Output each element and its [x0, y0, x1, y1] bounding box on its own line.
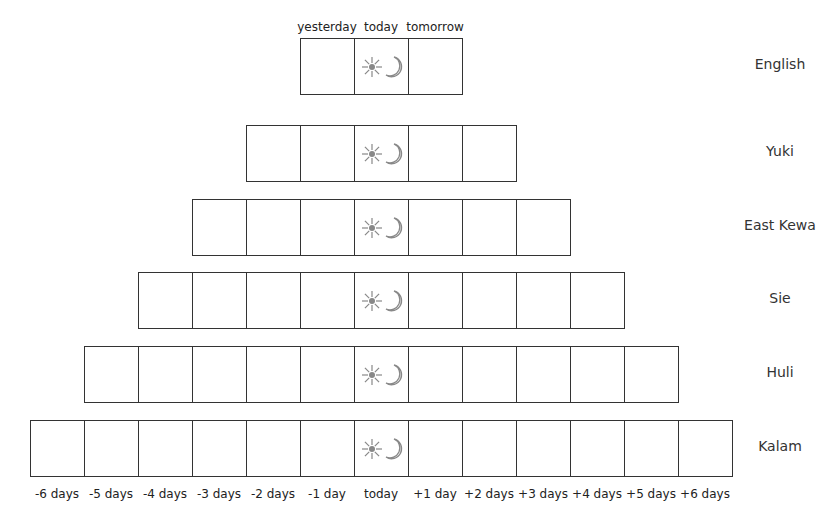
today-cell [355, 347, 409, 402]
day-cell [517, 347, 571, 402]
day-cell [625, 347, 679, 402]
day-cell [409, 126, 463, 181]
day-cell [463, 200, 517, 255]
bottom-day-label: -6 days [35, 487, 79, 501]
day-cell [463, 347, 517, 402]
day-cell [463, 126, 517, 181]
top-day-label: yesterday [297, 20, 357, 34]
day-cell [247, 200, 301, 255]
day-cell [409, 273, 463, 328]
language-label: Sie [769, 290, 790, 306]
day-terms-diagram: English Yuki East Kewa Sie Huli Kalamyes… [0, 0, 837, 522]
day-cell [517, 200, 571, 255]
day-cell [139, 347, 193, 402]
sun-icon [362, 439, 382, 459]
language-label: Kalam [758, 438, 802, 454]
day-cell [193, 200, 247, 255]
sun-moon-icon [355, 53, 408, 81]
day-cell [301, 273, 355, 328]
sun-icon [362, 144, 382, 164]
day-cell [247, 126, 301, 181]
day-cell [571, 347, 625, 402]
language-row [84, 346, 679, 403]
day-cell [301, 347, 355, 402]
day-cell [139, 273, 193, 328]
language-row [192, 199, 571, 256]
language-row [246, 125, 517, 182]
day-cell [85, 421, 139, 476]
day-cell [193, 273, 247, 328]
language-label: English [755, 56, 806, 72]
today-cell [355, 39, 409, 94]
day-cell [31, 421, 85, 476]
bottom-day-label: +2 days [464, 487, 514, 501]
sun-icon [362, 57, 382, 77]
sun-icon [362, 291, 382, 311]
day-cell [301, 421, 355, 476]
bottom-day-label: today [364, 487, 398, 501]
bottom-day-label: -2 days [251, 487, 295, 501]
day-cell [409, 200, 463, 255]
today-cell [355, 273, 409, 328]
today-cell [355, 200, 409, 255]
day-cell [409, 421, 463, 476]
day-cell [247, 273, 301, 328]
today-cell [355, 421, 409, 476]
sun-moon-icon [355, 287, 408, 315]
moon-icon [386, 218, 402, 238]
day-cell [463, 273, 517, 328]
bottom-day-label: -1 day [308, 487, 346, 501]
day-cell [247, 347, 301, 402]
sun-moon-icon [355, 140, 408, 168]
day-cell [301, 126, 355, 181]
day-cell [301, 39, 355, 94]
language-label: East Kewa [744, 217, 816, 233]
day-cell [517, 421, 571, 476]
top-day-label: tomorrow [406, 20, 464, 34]
day-cell [247, 421, 301, 476]
sun-icon [362, 218, 382, 238]
bottom-day-label: -4 days [143, 487, 187, 501]
day-cell [193, 347, 247, 402]
bottom-day-label: -3 days [197, 487, 241, 501]
day-cell [463, 421, 517, 476]
day-cell [571, 273, 625, 328]
language-row [30, 420, 733, 477]
day-cell [571, 421, 625, 476]
moon-icon [386, 291, 402, 311]
language-label: Yuki [766, 143, 794, 159]
bottom-day-label: -5 days [89, 487, 133, 501]
language-row [300, 38, 463, 95]
day-cell [301, 200, 355, 255]
sun-icon [362, 365, 382, 385]
day-cell [679, 421, 733, 476]
bottom-day-label: +1 day [413, 487, 457, 501]
bottom-day-label: +6 days [680, 487, 730, 501]
moon-icon [386, 144, 402, 164]
language-label: Huli [766, 364, 793, 380]
bottom-day-label: +4 days [572, 487, 622, 501]
moon-icon [386, 439, 402, 459]
bottom-day-label: +3 days [518, 487, 568, 501]
language-row [138, 272, 625, 329]
sun-moon-icon [355, 435, 408, 463]
top-day-label: today [364, 20, 398, 34]
day-cell [193, 421, 247, 476]
bottom-day-label: +5 days [626, 487, 676, 501]
day-cell [409, 347, 463, 402]
day-cell [139, 421, 193, 476]
sun-moon-icon [355, 214, 408, 242]
day-cell [409, 39, 463, 94]
day-cell [517, 273, 571, 328]
sun-moon-icon [355, 361, 408, 389]
moon-icon [386, 57, 402, 77]
today-cell [355, 126, 409, 181]
day-cell [85, 347, 139, 402]
day-cell [625, 421, 679, 476]
moon-icon [386, 365, 402, 385]
